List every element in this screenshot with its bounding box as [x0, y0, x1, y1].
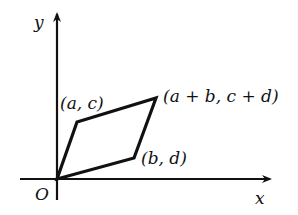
y-axis-label: y — [34, 14, 44, 31]
vertex-label-bd: (b, d) — [141, 150, 187, 167]
x-axis-label: x — [255, 190, 265, 207]
diagram-canvas — [0, 0, 298, 215]
origin-label: O — [35, 186, 49, 203]
parallelogram-diagram: y x O (a, c) (a + b, c + d) (b, d) — [0, 0, 298, 215]
vertex-label-abcd: (a + b, c + d) — [163, 88, 279, 105]
vertex-label-ac: (a, c) — [60, 95, 104, 112]
